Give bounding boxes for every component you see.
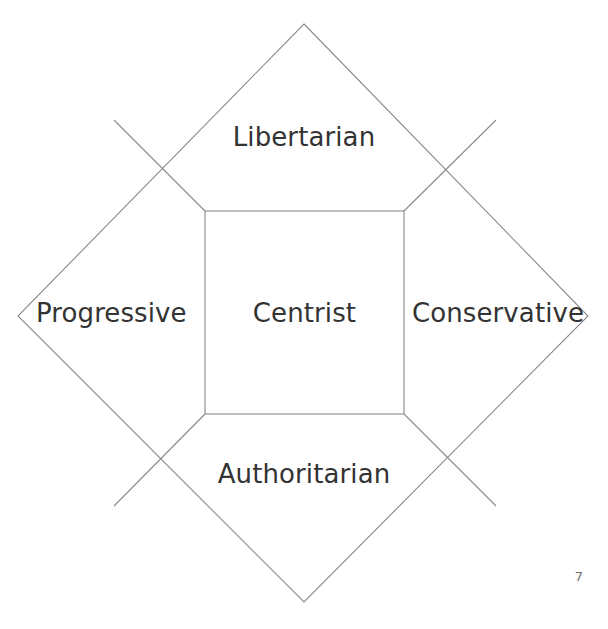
region-label-libertarian: Libertarian: [0, 124, 608, 150]
region-label-progressive: Progressive: [36, 300, 187, 326]
region-label-conservative: Conservative: [412, 300, 584, 326]
spoke-bottom-left: [114, 414, 205, 506]
spoke-bottom-right: [404, 414, 496, 506]
region-label-centrist: Centrist: [205, 300, 404, 326]
political-compass-diagram: Libertarian Progressive Centrist Conserv…: [0, 0, 608, 629]
page-number: 7: [575, 570, 583, 583]
region-label-authoritarian: Authoritarian: [0, 461, 608, 487]
